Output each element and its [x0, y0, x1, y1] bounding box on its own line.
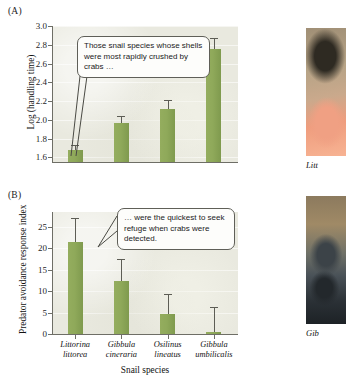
callout-panel-a: Those snail species whose shells were mo…	[77, 36, 210, 78]
callout-panel-b: … were the quickest to seek refuge when …	[117, 208, 235, 250]
